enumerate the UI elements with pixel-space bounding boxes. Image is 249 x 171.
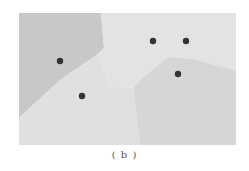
- site-point: [79, 93, 85, 99]
- site-point: [183, 38, 189, 44]
- site-point: [57, 58, 63, 64]
- site-point: [175, 71, 181, 77]
- site-point: [150, 38, 156, 44]
- figure-caption: ( b ): [0, 149, 249, 160]
- voronoi-figure: [0, 0, 249, 171]
